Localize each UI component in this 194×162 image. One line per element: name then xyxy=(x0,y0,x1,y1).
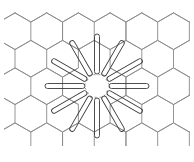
radial-loop xyxy=(101,95,125,132)
lattice-edge xyxy=(158,150,174,159)
lattice-edge xyxy=(15,123,31,132)
diagram-canvas xyxy=(0,0,194,162)
lattice-edge xyxy=(0,40,15,49)
lattice-edge xyxy=(31,150,47,159)
lattice-edge xyxy=(31,95,47,104)
lattice-edge xyxy=(47,150,63,159)
lattice-edge xyxy=(189,95,194,104)
lattice-edge xyxy=(63,95,79,104)
lattice-edge xyxy=(189,13,194,22)
lattice-edge xyxy=(158,13,174,22)
lattice-edge xyxy=(126,123,142,132)
central-hexagon xyxy=(84,75,110,98)
lattice-edge xyxy=(78,40,94,49)
radial-loop xyxy=(51,58,88,82)
lattice-edge xyxy=(142,95,158,104)
lattice-edge xyxy=(78,150,94,159)
core-hexagon-outline xyxy=(84,75,110,98)
lattice-edge xyxy=(142,68,158,77)
lattice-edge xyxy=(47,68,63,77)
lattice-edge xyxy=(63,150,79,159)
lattice-edge xyxy=(126,150,142,159)
lattice-edge xyxy=(110,68,126,77)
radial-loops xyxy=(45,34,149,138)
lattice-edge xyxy=(94,40,110,49)
lattice-edge xyxy=(189,123,194,132)
lattice-edge xyxy=(189,40,194,49)
lattice-edge xyxy=(174,123,190,132)
radial-loop xyxy=(45,84,85,89)
radial-loop xyxy=(95,98,100,138)
lattice-edge xyxy=(15,95,31,104)
lattice-edge xyxy=(31,40,47,49)
lattice-edge xyxy=(63,68,79,77)
radial-loop xyxy=(109,84,149,89)
lattice-edge xyxy=(31,150,47,159)
lattice-edge xyxy=(0,13,15,22)
lattice-edge xyxy=(110,150,126,159)
lattice-edge xyxy=(174,40,190,49)
lattice-edge xyxy=(15,68,31,77)
lattice-edge xyxy=(189,13,194,22)
lattice-edge xyxy=(31,68,47,77)
lattice-edge xyxy=(110,95,126,104)
lattice-edge xyxy=(15,150,31,159)
lattice-edge xyxy=(158,150,174,159)
lattice-edge xyxy=(142,150,158,159)
lattice-edge xyxy=(15,150,31,159)
lattice-edge xyxy=(31,123,47,132)
lattice-edge xyxy=(0,150,15,159)
lattice-edge xyxy=(94,150,110,159)
lattice-edge xyxy=(158,95,174,104)
lattice-edge xyxy=(142,13,158,22)
lattice-edge xyxy=(189,150,194,159)
lattice-edge xyxy=(47,40,63,49)
lattice-edge xyxy=(189,150,194,159)
radial-loop xyxy=(51,90,88,114)
lattice-edge xyxy=(63,150,79,159)
lattice-edge xyxy=(158,40,174,49)
lattice-edge xyxy=(63,13,79,22)
lattice-edge xyxy=(15,40,31,49)
lattice-edge xyxy=(94,13,110,22)
lattice-edge xyxy=(126,95,142,104)
lattice-edge xyxy=(174,68,190,77)
lattice-edge xyxy=(174,150,190,159)
hex-lattice-diagram xyxy=(0,0,194,162)
lattice-edge xyxy=(174,150,190,159)
lattice-edge xyxy=(142,40,158,49)
lattice-edge xyxy=(189,68,194,77)
lattice-edge xyxy=(158,123,174,132)
lattice-edge xyxy=(94,150,110,159)
lattice-edge xyxy=(189,123,194,132)
lattice-edge xyxy=(47,150,63,159)
lattice-edge xyxy=(189,40,194,49)
lattice-edge xyxy=(0,95,15,104)
lattice-edge xyxy=(110,150,126,159)
lattice-edge xyxy=(0,150,15,159)
lattice-edge xyxy=(0,123,15,132)
lattice-edge xyxy=(15,13,31,22)
lattice-edge xyxy=(47,95,63,104)
lattice-edge xyxy=(0,68,15,77)
radial-loop xyxy=(95,34,100,74)
lattice-edge xyxy=(189,68,194,77)
lattice-edge xyxy=(158,68,174,77)
lattice-edge xyxy=(78,150,94,159)
lattice-edge xyxy=(126,68,142,77)
lattice-edge xyxy=(189,95,194,104)
lattice-edge xyxy=(78,13,94,22)
radial-loop xyxy=(101,40,125,77)
lattice-edge xyxy=(47,13,63,22)
lattice-edge xyxy=(47,123,63,132)
lattice-edge xyxy=(78,123,94,132)
lattice-edge xyxy=(31,13,47,22)
lattice-edge xyxy=(110,13,126,22)
lattice-edge xyxy=(174,95,190,104)
lattice-edge xyxy=(142,150,158,159)
lattice-edge xyxy=(142,123,158,132)
lattice-edge xyxy=(126,150,142,159)
lattice-edge xyxy=(126,40,142,49)
lattice-edge xyxy=(126,13,142,22)
lattice-edge xyxy=(94,123,110,132)
